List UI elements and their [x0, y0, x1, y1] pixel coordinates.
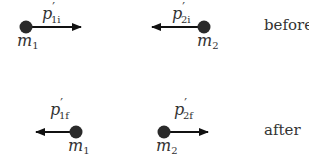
- collision-diagram: p′1i m1 p′2i m2 before p′1f: [0, 0, 309, 156]
- state-label-before: before: [264, 16, 309, 34]
- momentum-label-p2f: p′2f: [174, 97, 194, 121]
- before-body-1: p′1i m1: [17, 1, 81, 51]
- after-body-1: p′1f m1: [36, 97, 90, 156]
- mass-label-m1: m1: [68, 136, 90, 156]
- momentum-label-p2i: p′2i: [172, 1, 191, 25]
- momentum-label-p1i: p′1i: [42, 1, 61, 25]
- before-body-2: p′2i m2: [152, 1, 219, 51]
- momentum-label-p1f: p′1f: [50, 97, 70, 121]
- state-label-after: after: [264, 121, 301, 139]
- mass-label-m2: m2: [156, 136, 178, 156]
- after-body-2: p′2f m2: [156, 97, 208, 156]
- mass-label-m1: m1: [17, 31, 39, 51]
- mass-label-m2: m2: [197, 31, 219, 51]
